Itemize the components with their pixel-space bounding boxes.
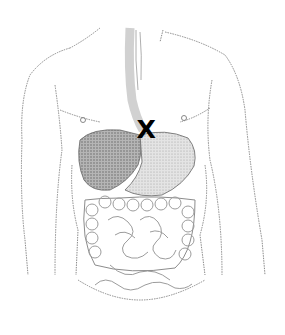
liver (79, 130, 141, 191)
neck-left (70, 28, 100, 48)
location-marker-x: X (137, 118, 156, 142)
anatomy-illustration: X (0, 0, 285, 335)
torso-drawing (0, 0, 285, 335)
